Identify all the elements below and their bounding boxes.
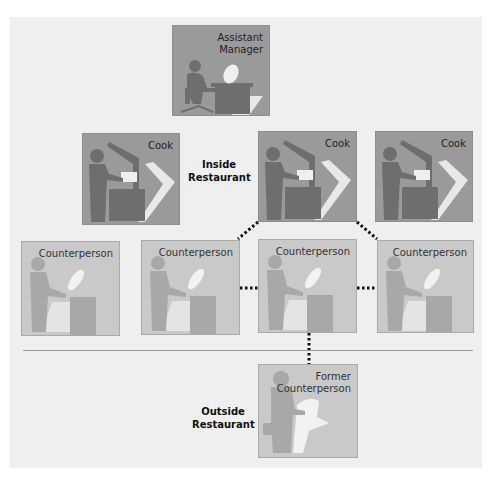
node-label: FormerCounterperson	[277, 371, 351, 395]
node-label: Counterperson	[39, 248, 113, 260]
node-label: Cook	[148, 140, 173, 152]
node-former-counterperson: FormerCounterperson	[258, 364, 358, 458]
node-assistant-manager: AssistantManager	[172, 25, 270, 116]
node-counterperson-2: Counterperson	[141, 240, 240, 335]
node-label: Cook	[325, 138, 350, 150]
node-cook-3: Cook	[375, 131, 473, 222]
node-label: Counterperson	[393, 247, 467, 259]
node-label: Cook	[441, 138, 466, 150]
node-cook-1: Cook	[82, 133, 180, 225]
node-label: Counterperson	[276, 246, 350, 258]
node-cook-2: Cook	[258, 131, 357, 222]
connector-cook2-counter4	[357, 222, 377, 239]
node-label: AssistantManager	[217, 32, 263, 56]
node-counterperson-4: Counterperson	[377, 240, 474, 333]
node-label: Counterperson	[159, 247, 233, 259]
outside-restaurant-caption: OutsideRestaurant	[192, 405, 254, 431]
node-counterperson-1: Counterperson	[21, 241, 120, 336]
inside-restaurant-caption: InsideRestaurant	[188, 158, 250, 184]
connector-cook2-counter2	[238, 222, 258, 239]
node-counterperson-3: Counterperson	[258, 239, 357, 333]
inside-outside-divider	[23, 350, 473, 351]
